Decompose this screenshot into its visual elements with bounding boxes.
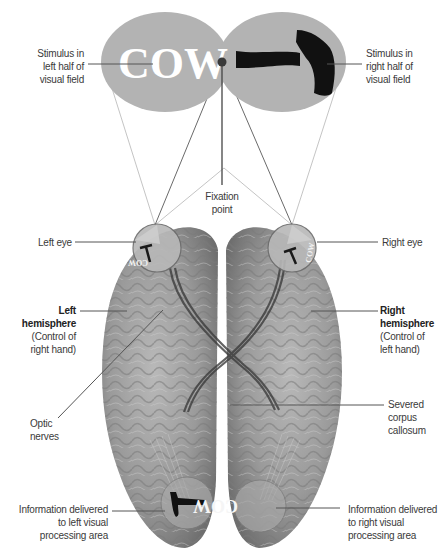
cow-word-mirrored: COW	[128, 258, 148, 267]
fixation-point-label: Fixation point	[190, 190, 254, 216]
left-eye-label: Left eye	[38, 236, 72, 249]
left-hemisphere-label: Left hemisphere (Control of right hand)	[8, 304, 76, 356]
optic-nerves-label: Optic nerves	[30, 417, 59, 443]
cow-word-processed: COW	[193, 496, 238, 516]
stimulus-left-label: Stimulus in left half of visual field	[18, 47, 84, 86]
leader-lines	[58, 64, 384, 511]
info-right-label: Information delivered to right visual pr…	[348, 503, 444, 542]
corpus-callosum-label: Severed corpus callosum	[388, 398, 426, 437]
fixation-point-dot	[218, 58, 227, 67]
split-brain-diagram: COW	[0, 0, 444, 558]
left-eye-circle: COW	[128, 224, 181, 272]
right-eye-circle: COW	[268, 224, 316, 272]
stimulus-right-label: Stimulus in right half of visual field	[366, 47, 444, 86]
info-left-label: Information delivered to left visual pro…	[0, 503, 108, 542]
right-eye-label: Right eye	[382, 236, 422, 249]
right-hemisphere-label: Right hemisphere (Control of left hand)	[380, 304, 444, 356]
